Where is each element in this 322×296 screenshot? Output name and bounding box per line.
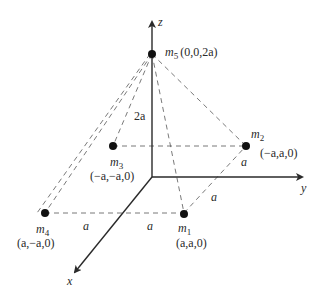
height-label: 2a — [134, 109, 146, 123]
edge-m5-m4-a — [45, 54, 152, 213]
m4-m1-right-a-label: a — [147, 219, 153, 233]
mass-point-m2 — [242, 142, 250, 150]
mass-point-m1 — [180, 210, 188, 218]
mass-point-m4 — [41, 209, 49, 217]
edge-m5-m1 — [152, 54, 184, 213]
mass-points — [41, 50, 250, 218]
m3-coords-label: (−a,−a,0) — [90, 169, 134, 183]
m4-m1-left-a-label: a — [83, 219, 89, 233]
m1-coords-label: (a,a,0) — [176, 236, 207, 250]
m2-name-label: m2 — [251, 127, 264, 143]
m4-coords-label: (a,−a,0) — [17, 236, 54, 250]
m2-side-upper-a-label: a — [241, 155, 247, 169]
m2-coords-label: (−a,a,0) — [260, 146, 297, 160]
mass-labels: m5(0,0,2a) m3 (−a,−a,0) m2 (−a,a,0) m4 (… — [17, 45, 297, 250]
m5-label: m5(0,0,2a) — [165, 45, 218, 61]
edge-m5-m2 — [152, 54, 246, 146]
z-axis-label: z — [157, 15, 163, 29]
m1-name-label: m1 — [178, 221, 191, 237]
y-axis-label: y — [300, 181, 307, 195]
edge-m5-m4-b — [37, 54, 150, 213]
edge-m5-m3 — [113, 54, 152, 146]
m2-side-lower-a-label: a — [211, 190, 217, 204]
x-axis-label: x — [66, 274, 73, 288]
mass-point-m3 — [109, 142, 117, 150]
pyramid-mass-diagram: z y x m5(0,0,2a) m3 (−a,−a,0) m2 (−a,a,0… — [0, 0, 322, 296]
mass-point-m5 — [148, 50, 156, 58]
